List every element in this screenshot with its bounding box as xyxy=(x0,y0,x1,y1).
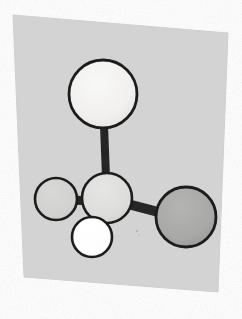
atom-center-hub xyxy=(82,173,132,223)
atom-left-small xyxy=(35,178,77,220)
ball-and-stick-diagram xyxy=(0,0,242,319)
scanned-panel-group xyxy=(13,15,228,292)
atom-right-large-gray xyxy=(156,187,216,247)
bond-top-center xyxy=(104,125,106,177)
atom-bottom-white xyxy=(72,217,112,257)
scan-speck xyxy=(136,230,138,232)
scanned-paper-panel xyxy=(13,15,228,292)
scan-speck xyxy=(138,234,140,236)
figure-root: Ball-and-stick molecular model Photograp… xyxy=(0,0,242,319)
atom-top-large-pale xyxy=(69,60,137,128)
